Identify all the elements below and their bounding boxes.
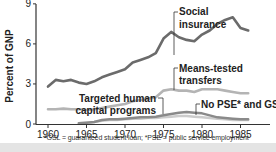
svg-text:transfers: transfers	[179, 75, 222, 86]
bottom-band	[0, 143, 276, 152]
y-tick-label: 3	[25, 78, 31, 89]
y-tick-label: 9	[25, 0, 31, 9]
y-tick-label: 0	[25, 119, 31, 130]
y-tick-label: 6	[25, 38, 31, 49]
line-chart: 0369 196019651970197519801985 Percent of…	[0, 0, 276, 152]
footnote: *GSL = guaranteed student loan; *PSE = p…	[44, 134, 249, 141]
annotation-social-insurance: Social insurance	[174, 6, 227, 55]
y-axis-label: Percent of GNP	[4, 29, 15, 103]
svg-text:insurance: insurance	[179, 19, 227, 30]
svg-text:Means-tested: Means-tested	[179, 63, 243, 74]
svg-text:No PSE* and GSL*: No PSE* and GSL*	[201, 99, 276, 110]
svg-text:capital programs: capital programs	[75, 105, 156, 116]
svg-text:Targeted human: Targeted human	[79, 93, 156, 104]
annotation-means-tested: Means-tested transfers	[174, 63, 243, 90]
y-ticks: 0369	[25, 0, 36, 129]
annotation-no-pse-gsl: No PSE* and GSL*	[196, 99, 276, 115]
annotation-targeted-human-capital: Targeted human capital programs	[75, 93, 163, 116]
svg-text:Social: Social	[179, 6, 209, 17]
